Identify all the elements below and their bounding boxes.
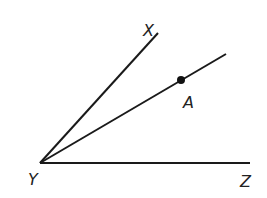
point-a-dot xyxy=(177,76,185,84)
label-z: Z xyxy=(239,172,252,191)
label-x: X xyxy=(142,21,155,40)
ray-ya xyxy=(40,54,226,163)
label-y: Y xyxy=(28,170,39,189)
label-a: A xyxy=(182,93,194,112)
angle-diagram: X A Y Z xyxy=(0,0,267,198)
ray-yx xyxy=(40,33,158,163)
